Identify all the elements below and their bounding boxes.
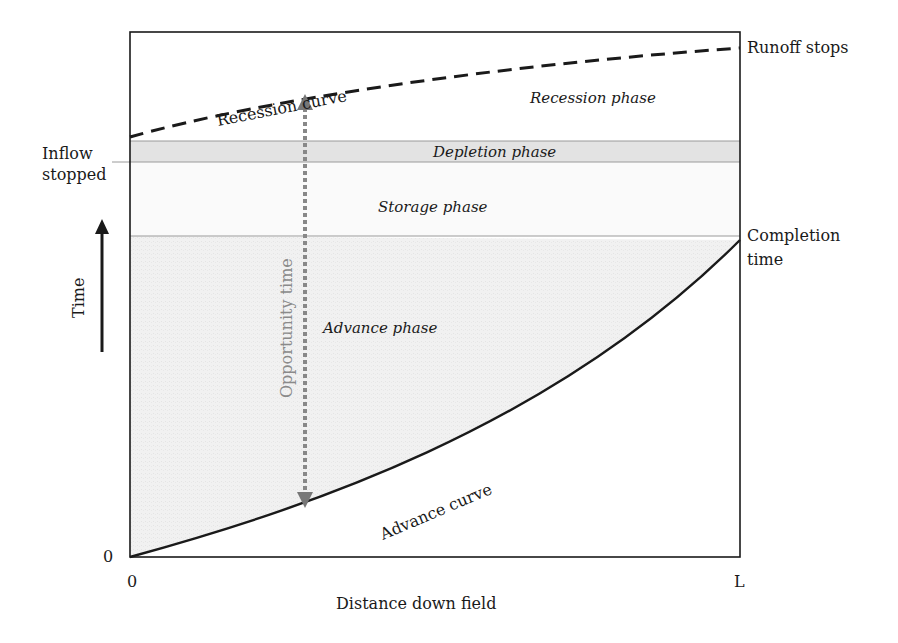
y-axis-origin-label: 0 <box>103 547 113 567</box>
advance-curve-label: Advance curve <box>376 479 494 544</box>
time-axis-label: Time <box>69 278 88 318</box>
time-arrow-up-icon <box>95 219 109 234</box>
runoff-stops-label: Runoff stops <box>747 38 848 58</box>
advance-phase-label: Advance phase <box>323 318 437 338</box>
recession-curve-label: Recession curve <box>215 86 348 130</box>
x-axis-start-label: 0 <box>127 572 137 592</box>
recession-phase-label: Recession phase <box>530 88 656 108</box>
opportunity-time-label: Opportunity time <box>277 258 296 398</box>
diagram-canvas: Recession curve Advance curve Opportunit… <box>0 0 898 643</box>
x-axis-end-label: L <box>734 572 745 592</box>
completion-time-label-line1: Completion <box>747 226 840 246</box>
completion-time-label-line2: time <box>747 250 783 270</box>
depletion-phase-label: Depletion phase <box>433 142 556 162</box>
inflow-stopped-label-line2: stopped <box>42 165 106 185</box>
x-axis-label: Distance down field <box>336 594 496 614</box>
storage-phase-label: Storage phase <box>378 197 487 217</box>
inflow-stopped-label-line1: Inflow <box>42 144 93 164</box>
